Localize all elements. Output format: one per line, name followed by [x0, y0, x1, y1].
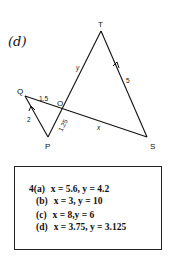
- edge-label-x: x: [96, 124, 101, 131]
- segment-QS: [25, 96, 147, 137]
- vertex-label-S: S: [150, 142, 155, 151]
- answer-value: x = 3.75, y = 3.125: [54, 222, 127, 232]
- edge-label-1-25: 1.25: [57, 118, 69, 133]
- edge-label-2: 2: [27, 116, 31, 123]
- edge-label-1-5: 1.5: [39, 95, 48, 102]
- answer-key: (b): [36, 196, 48, 206]
- segment-TP: [48, 31, 101, 137]
- answer-row: (d)x = 3.75, y = 3.125: [36, 222, 126, 232]
- answer-row: (b)x = 3, y = 10: [36, 196, 102, 206]
- answer-row: 4(a)x = 5.6, y = 4.2: [29, 184, 109, 194]
- edge-label-5: 5: [126, 77, 130, 84]
- vertex-label-O: O: [57, 99, 63, 108]
- answer-value: x = 3, y = 10: [54, 196, 103, 206]
- segment-TS: [101, 31, 147, 137]
- part-label: (d): [8, 34, 26, 49]
- answer-value: x = 5.6, y = 4.2: [51, 184, 109, 194]
- vertex-label-T: T: [98, 20, 103, 29]
- vertex-label-P: P: [45, 142, 50, 151]
- answer-value: x = 8,y = 6: [53, 210, 95, 220]
- answers-box: 4(a)x = 5.6, y = 4.2 (b)x = 3, y = 10 (c…: [14, 166, 162, 250]
- answer-key: 4(a): [29, 184, 45, 194]
- answer-row: (c)x = 8,y = 6: [36, 210, 94, 220]
- answer-key: (d): [36, 222, 48, 232]
- similar-triangles-diagram: (d) T Q O P S y 5 1.5 2 1.25 x: [0, 0, 170, 160]
- vertex-label-Q: Q: [17, 87, 23, 96]
- edge-label-y: y: [75, 64, 80, 72]
- answer-key: (c): [36, 210, 47, 220]
